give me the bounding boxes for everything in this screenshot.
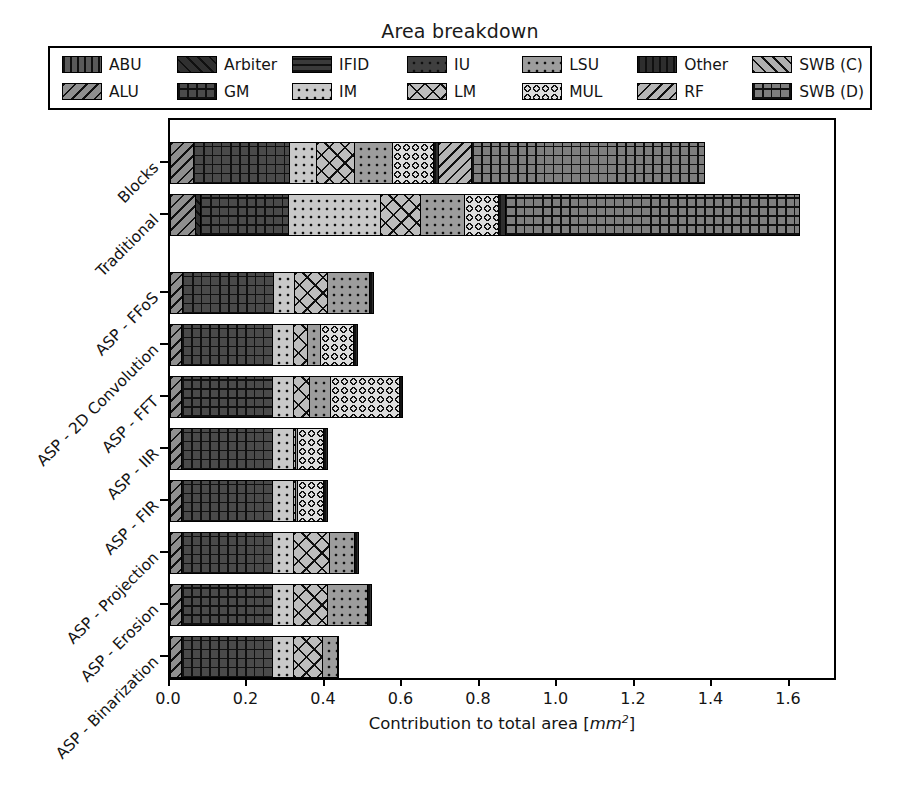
bar-segment-gm[interactable] xyxy=(181,376,273,418)
bar-segment-lm[interactable] xyxy=(380,194,422,236)
bar-segment-im[interactable] xyxy=(272,428,294,470)
y-tick-label: ASP - Projection xyxy=(63,549,162,648)
bar-segment-mul[interactable] xyxy=(320,324,355,366)
bar-segment-im[interactable] xyxy=(272,636,294,678)
legend-entry-ifid[interactable]: IFID xyxy=(286,56,401,74)
bar-segment-gm[interactable] xyxy=(181,636,273,678)
bar-segment-rf[interactable] xyxy=(438,142,473,184)
bar-row[interactable] xyxy=(170,532,834,574)
bar-segment-alu[interactable] xyxy=(170,142,194,184)
legend-entry-alu[interactable]: ALU xyxy=(56,83,171,101)
bar-segment-lm[interactable] xyxy=(316,142,355,184)
bar-segment-lm[interactable] xyxy=(293,376,310,418)
legend-entry-mul[interactable]: MUL xyxy=(516,83,631,101)
bar-segment-lsu[interactable] xyxy=(327,584,369,626)
bar-segment-alu[interactable] xyxy=(170,194,196,236)
y-tick xyxy=(160,291,168,293)
bar-segment-other[interactable] xyxy=(353,324,358,366)
bar-segment-gm[interactable] xyxy=(182,272,274,314)
bar-segment-lm[interactable] xyxy=(293,532,330,574)
bar-row[interactable] xyxy=(170,428,834,470)
bar-row[interactable] xyxy=(170,324,834,366)
bar-segment-other[interactable] xyxy=(337,636,339,678)
y-tick xyxy=(160,499,168,501)
legend-entry-swb-d[interactable]: SWB (D) xyxy=(746,83,864,101)
legend-entry-abu[interactable]: ABU xyxy=(56,56,171,74)
legend-entry-gm[interactable]: GM xyxy=(171,83,286,101)
bar-segment-lm[interactable] xyxy=(293,584,328,626)
bar-segment-other[interactable] xyxy=(367,584,372,626)
legend-label: LSU xyxy=(569,56,599,74)
bar-segment-im[interactable] xyxy=(273,272,295,314)
bar-segment-lsu[interactable] xyxy=(420,194,465,236)
x-tick-label: 1.4 xyxy=(698,689,723,708)
stacked-bar[interactable] xyxy=(170,584,372,626)
bar-segment-gm[interactable] xyxy=(200,194,290,236)
bar-segment-im[interactable] xyxy=(272,584,294,626)
bar-segment-gm[interactable] xyxy=(181,428,273,470)
bar-segment-lsu[interactable] xyxy=(322,636,339,678)
bar-segment-im[interactable] xyxy=(272,480,294,522)
bar-segment-mul[interactable] xyxy=(392,142,434,184)
bar-row[interactable] xyxy=(170,636,834,678)
bar-segment-im[interactable] xyxy=(289,142,317,184)
bar-segment-swb-d[interactable] xyxy=(505,194,800,236)
stacked-bar[interactable] xyxy=(170,376,403,418)
bar-segment-other[interactable] xyxy=(354,532,359,574)
bar-segment-gm[interactable] xyxy=(181,532,273,574)
bar-segment-other[interactable] xyxy=(369,272,374,314)
legend-entry-swb-c[interactable]: SWB (C) xyxy=(746,56,864,74)
stacked-bar[interactable] xyxy=(170,480,328,522)
stacked-bar[interactable] xyxy=(170,142,705,184)
bar-row[interactable] xyxy=(170,480,834,522)
bar-segment-mul[interactable] xyxy=(297,428,325,470)
bar-segment-lm[interactable] xyxy=(293,636,323,678)
bar-segment-im[interactable] xyxy=(272,532,294,574)
stacked-bar[interactable] xyxy=(170,532,359,574)
bar-segment-lsu[interactable] xyxy=(354,142,394,184)
bar-segment-gm[interactable] xyxy=(181,584,273,626)
bar-row[interactable] xyxy=(170,194,834,236)
legend-swatch-other xyxy=(637,56,677,73)
stacked-bar[interactable] xyxy=(170,272,374,314)
legend-swatch-alu xyxy=(62,83,102,100)
bar-segment-mul[interactable] xyxy=(464,194,499,236)
bar-segment-gm[interactable] xyxy=(193,142,291,184)
bar-segment-lsu[interactable] xyxy=(329,532,355,574)
bar-segment-gm[interactable] xyxy=(181,324,273,366)
bar-row[interactable] xyxy=(170,142,834,184)
bar-segment-im[interactable] xyxy=(272,324,294,366)
bar-segment-lsu[interactable] xyxy=(327,272,370,314)
x-tick-label: 1.6 xyxy=(775,689,800,708)
legend-label: GM xyxy=(224,83,249,101)
legend-entry-rf[interactable]: RF xyxy=(631,83,746,101)
stacked-bar[interactable] xyxy=(170,324,358,366)
stacked-bar[interactable] xyxy=(170,194,800,236)
stacked-bar[interactable] xyxy=(170,636,339,678)
bar-segment-lm[interactable] xyxy=(294,272,329,314)
legend-swatch-lsu xyxy=(522,56,562,73)
bar-segment-other[interactable] xyxy=(399,376,403,418)
legend-entry-iu[interactable]: IU xyxy=(401,56,516,74)
bar-segment-swb-d[interactable] xyxy=(471,142,705,184)
stacked-bar[interactable] xyxy=(170,428,328,470)
legend-label: ABU xyxy=(109,56,142,74)
bar-segment-lsu[interactable] xyxy=(309,376,332,418)
bar-segment-mul[interactable] xyxy=(297,480,325,522)
bar-row[interactable] xyxy=(170,584,834,626)
legend-entry-arbiter[interactable]: Arbiter xyxy=(171,56,286,74)
legend-entry-im[interactable]: IM xyxy=(286,83,401,101)
x-tick-label: 1.0 xyxy=(543,689,568,708)
legend-swatch-swb-c xyxy=(752,56,792,73)
bar-segment-other[interactable] xyxy=(323,480,328,522)
bar-segment-other[interactable] xyxy=(323,428,328,470)
bar-segment-im[interactable] xyxy=(272,376,294,418)
bar-segment-mul[interactable] xyxy=(330,376,400,418)
bar-segment-gm[interactable] xyxy=(181,480,273,522)
legend-entry-other[interactable]: Other xyxy=(631,56,746,74)
bar-row[interactable] xyxy=(170,272,834,314)
legend-entry-lm[interactable]: LM xyxy=(401,83,516,101)
bar-row[interactable] xyxy=(170,376,834,418)
legend-entry-lsu[interactable]: LSU xyxy=(516,56,631,74)
bar-segment-im[interactable] xyxy=(288,194,381,236)
